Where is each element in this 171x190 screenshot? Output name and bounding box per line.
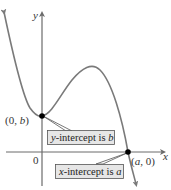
y-axis-label: y xyxy=(32,9,38,21)
y-intercept-callout: y-intercept is b xyxy=(48,131,115,145)
x-intercept-point-label: (a, 0) xyxy=(131,155,155,168)
x-intercept-callout-pointer xyxy=(96,153,127,164)
y-intercept-point xyxy=(39,113,45,119)
x-intercept-callout: x-intercept is a xyxy=(56,165,124,179)
y-intercept-point-label: (0, b) xyxy=(5,114,29,127)
svg-text:x-intercept is a: x-intercept is a xyxy=(58,166,121,177)
svg-text:y-intercept is b: y-intercept is b xyxy=(50,132,113,143)
function-graph: x y 0 (0, b) (a, 0) y-intercept is b x-i… xyxy=(0,0,171,190)
origin-label: 0 xyxy=(33,154,39,166)
x-intercept-point xyxy=(125,149,131,155)
y-intercept-callout-pointer xyxy=(43,116,72,131)
x-axis-label: x xyxy=(162,150,168,162)
